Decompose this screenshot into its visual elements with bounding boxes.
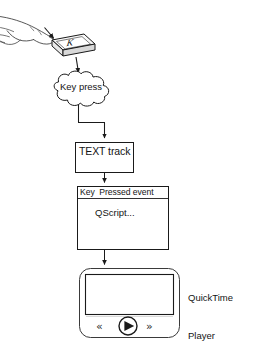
player-screen [86,275,174,315]
diagram-canvas: K [0,0,255,345]
connector-key-to-cloud [76,57,79,73]
event-box-body-label: QScript... [95,208,135,219]
text-track-label: TEXT track [79,146,130,158]
quicktime-player-label: QuickTime Player [188,266,233,345]
player-label-line1: QuickTime [188,292,233,305]
event-box-header-label: Key Pressed event [80,188,154,198]
rewind-icon[interactable]: « [96,320,103,333]
player-label-line2: Player [188,330,233,343]
fast-forward-icon[interactable]: » [146,320,153,333]
play-triangle-icon[interactable] [119,317,137,335]
connector-cloud-to-text-track [79,105,105,139]
quicktime-player-window[interactable] [80,269,180,338]
keyboard-key-icon: K [52,34,95,56]
cloud-label: Key press [52,82,110,93]
